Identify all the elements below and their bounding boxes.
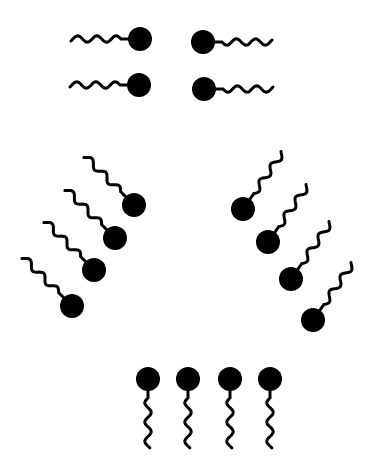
phospholipid-molecule: [191, 30, 272, 54]
phospholipid-molecule: [70, 73, 151, 97]
hydrophobic-tail: [274, 184, 307, 233]
phospholipid-molecule: [22, 259, 84, 319]
phospholipid-molecule: [65, 191, 127, 251]
pairs-horizontal-group: [70, 27, 273, 101]
hydrophobic-tail: [185, 390, 191, 448]
hydrophobic-tail: [65, 191, 107, 231]
phospholipid-molecule: [256, 184, 307, 254]
hydrophilic-head: [256, 230, 280, 254]
phospholipid-molecule: [279, 221, 330, 291]
hydrophobic-tail: [44, 223, 86, 263]
left-diagonal-row-group: [22, 158, 146, 319]
phospholipid-molecule: [231, 151, 282, 221]
hydrophobic-tail: [227, 390, 233, 448]
hydrophilic-head: [191, 30, 215, 54]
phospholipid-diagram: [0, 0, 379, 456]
hydrophobic-tail: [267, 390, 273, 448]
hydrophobic-tail: [84, 158, 126, 198]
hydrophilic-head: [258, 367, 282, 391]
hydrophilic-head: [82, 258, 106, 282]
phospholipid-molecule: [218, 367, 242, 448]
phospholipid-molecule: [301, 262, 352, 332]
hydrophilic-head: [122, 193, 146, 217]
phospholipid-molecule: [44, 223, 106, 283]
hydrophilic-head: [60, 294, 84, 318]
hydrophilic-head: [127, 73, 151, 97]
phospholipid-molecule: [176, 367, 200, 448]
hydrophilic-head: [279, 267, 303, 291]
hydrophilic-head: [176, 367, 200, 391]
diagram-canvas: [0, 0, 379, 456]
phospholipid-molecule: [192, 77, 273, 101]
hydrophobic-tail: [22, 259, 64, 299]
hydrophilic-head: [301, 308, 325, 332]
hydrophobic-tail: [70, 82, 128, 88]
right-diagonal-row-group: [231, 151, 352, 332]
hydrophobic-tail: [215, 86, 273, 92]
hydrophilic-head: [192, 77, 216, 101]
phospholipid-molecule: [71, 27, 152, 51]
hydrophilic-head: [231, 197, 255, 221]
hydrophilic-head: [136, 367, 160, 391]
hydrophobic-tail: [214, 39, 272, 45]
hydrophobic-tail: [297, 221, 330, 270]
hydrophobic-tail: [249, 151, 282, 200]
phospholipid-molecule: [136, 367, 160, 448]
hydrophobic-tail: [319, 262, 352, 311]
hydrophobic-tail: [145, 390, 151, 448]
phospholipid-molecule: [84, 158, 146, 218]
phospholipid-molecule: [258, 367, 282, 448]
hydrophobic-tail: [71, 36, 129, 42]
bottom-row-group: [136, 367, 282, 448]
hydrophilic-head: [103, 226, 127, 250]
hydrophilic-head: [128, 27, 152, 51]
hydrophilic-head: [218, 367, 242, 391]
